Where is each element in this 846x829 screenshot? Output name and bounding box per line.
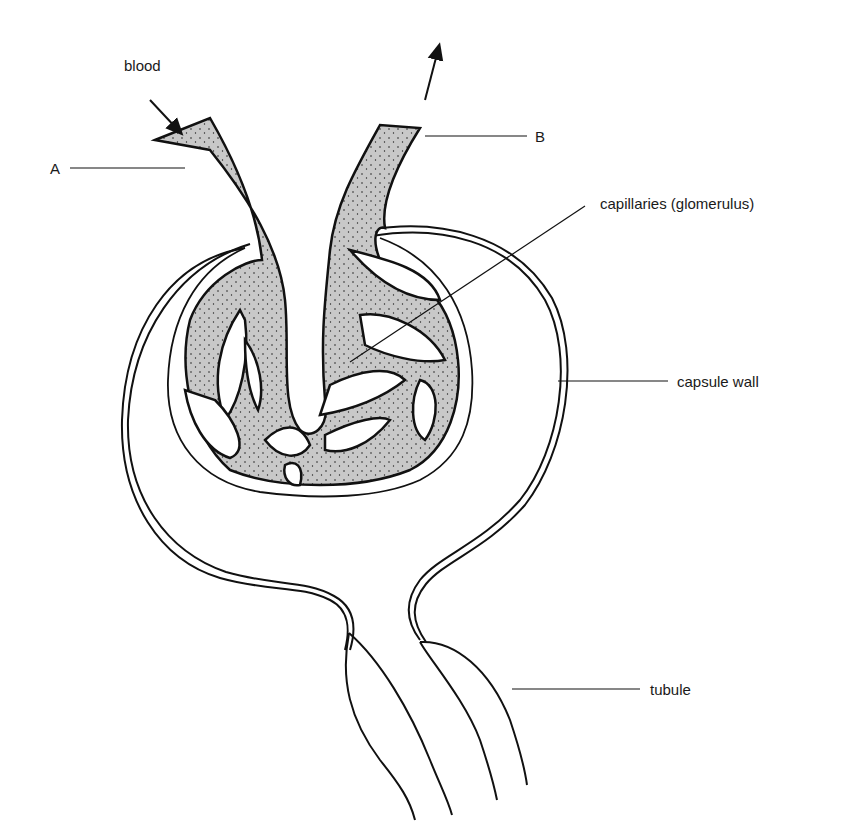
- glomerulus-diagram: [0, 0, 846, 829]
- label-b: B: [535, 129, 545, 144]
- label-a: A: [50, 161, 60, 176]
- label-tubule: tubule: [650, 682, 691, 697]
- label-capillaries: capillaries (glomerulus): [600, 196, 754, 211]
- tubule: [346, 633, 527, 820]
- blood-out-arrow: [425, 50, 438, 100]
- blood-in-arrow: [150, 100, 178, 130]
- label-blood: blood: [124, 58, 161, 73]
- label-capsule-wall: capsule wall: [677, 374, 759, 389]
